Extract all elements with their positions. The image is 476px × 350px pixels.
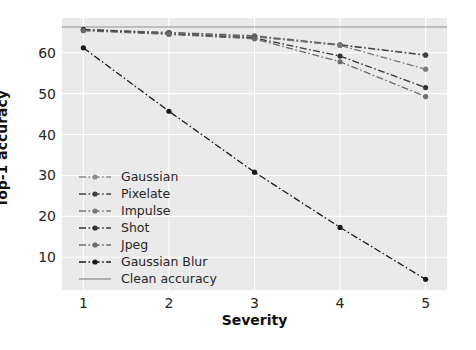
legend-swatch-icon	[78, 221, 112, 235]
x-tick-label: 5	[421, 295, 430, 311]
figure-canvas: Top-1 accuracy 102030405060 12345 Severi…	[0, 0, 476, 350]
y-tick-label: 20	[38, 208, 56, 224]
legend-swatch-icon	[78, 272, 112, 286]
data-point-marker	[81, 45, 86, 50]
data-point-marker	[423, 67, 428, 72]
data-point-marker	[423, 85, 428, 90]
x-axis-label: Severity	[62, 312, 447, 328]
legend-label: Jpeg	[121, 237, 148, 252]
data-point-marker	[337, 43, 342, 48]
legend-label: Impulse	[121, 203, 170, 218]
data-point-marker	[337, 59, 342, 64]
legend-item-gaussian[interactable]: Gaussian	[78, 168, 217, 185]
y-axis-label: Top-1 accuracy	[0, 90, 10, 208]
legend-swatch-icon	[78, 255, 112, 269]
legend-label: Gaussian Blur	[121, 254, 207, 269]
data-point-marker	[252, 36, 257, 41]
legend-swatch-icon	[78, 238, 112, 252]
data-point-marker	[337, 53, 342, 58]
x-tick-label: 2	[164, 295, 173, 311]
legend-swatch-icon	[78, 204, 112, 218]
data-point-marker	[423, 53, 428, 58]
legend-item-clean-accuracy[interactable]: Clean accuracy	[78, 270, 217, 287]
legend-item-gaussian-blur[interactable]: Gaussian Blur	[78, 253, 217, 270]
legend-swatch-icon	[78, 187, 112, 201]
y-tick-label: 60	[38, 45, 56, 61]
data-point-marker	[423, 94, 428, 99]
data-point-marker	[166, 109, 171, 114]
legend: GaussianPixelateImpulseShotJpegGaussian …	[78, 168, 217, 287]
data-point-marker	[166, 32, 171, 37]
y-tick-label: 40	[38, 127, 56, 143]
data-point-marker	[337, 225, 342, 230]
legend-label: Shot	[121, 220, 149, 235]
x-tick-label: 4	[336, 295, 345, 311]
data-point-marker	[81, 28, 86, 33]
legend-item-impulse[interactable]: Impulse	[78, 202, 217, 219]
y-tick-label: 30	[38, 167, 56, 183]
y-tick-label: 10	[38, 249, 56, 265]
legend-label: Pixelate	[121, 186, 170, 201]
x-tick-label: 3	[250, 295, 259, 311]
data-point-marker	[423, 277, 428, 282]
data-point-marker	[252, 170, 257, 175]
legend-label: Clean accuracy	[121, 271, 217, 286]
y-tick-label: 50	[38, 86, 56, 102]
legend-item-pixelate[interactable]: Pixelate	[78, 185, 217, 202]
legend-item-jpeg[interactable]: Jpeg	[78, 236, 217, 253]
x-tick-label: 1	[79, 295, 88, 311]
legend-swatch-icon	[78, 170, 112, 184]
legend-label: Gaussian	[121, 169, 178, 184]
legend-item-shot[interactable]: Shot	[78, 219, 217, 236]
